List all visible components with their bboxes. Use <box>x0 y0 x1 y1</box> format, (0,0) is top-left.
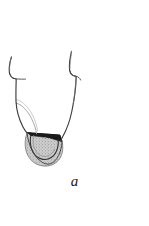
figure-panel: a <box>0 0 149 226</box>
figure-background <box>0 0 149 226</box>
figure-caption-label: a <box>0 172 149 190</box>
figure-drawing <box>0 0 149 226</box>
